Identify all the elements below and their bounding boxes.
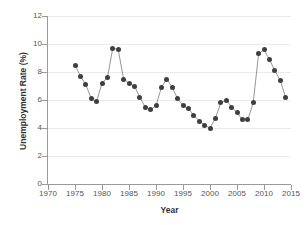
data-point <box>78 74 83 79</box>
data-point <box>73 63 78 68</box>
data-point <box>213 116 218 121</box>
data-point <box>132 84 137 89</box>
x-axis-title: Year <box>48 205 291 215</box>
data-point <box>283 95 288 100</box>
data-point <box>197 119 202 124</box>
data-point <box>143 105 148 110</box>
data-point <box>164 77 169 82</box>
data-point <box>121 77 126 82</box>
data-point <box>278 78 283 83</box>
data-point <box>116 47 121 52</box>
data-point <box>159 85 164 90</box>
data-point <box>94 99 99 104</box>
data-point <box>202 123 207 128</box>
data-point <box>240 117 245 122</box>
plot-area: 024681012 197019751980198519901995200020… <box>0 0 308 225</box>
data-point <box>154 103 159 108</box>
data-point <box>100 81 105 86</box>
data-point <box>235 110 240 115</box>
y-axis-title: Unemployment Rate (%) <box>18 26 28 176</box>
data-point <box>170 85 175 90</box>
unemployment-series-line <box>0 0 308 225</box>
data-point <box>224 98 229 103</box>
data-point <box>89 96 94 101</box>
data-point <box>208 126 213 131</box>
data-point <box>181 103 186 108</box>
data-point <box>267 57 272 62</box>
data-point <box>262 47 267 52</box>
data-point <box>186 106 191 111</box>
data-point <box>105 75 110 80</box>
data-point <box>229 105 234 110</box>
data-point <box>127 81 132 86</box>
chart-figure: 024681012 197019751980198519901995200020… <box>0 0 308 225</box>
